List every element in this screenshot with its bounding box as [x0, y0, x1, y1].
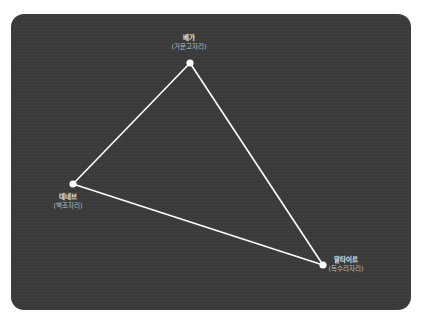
star-label-vega: 베가 (거문고자리) [171, 35, 206, 50]
star-name: 알타이르 [328, 257, 363, 264]
edge-altair-vega [190, 63, 323, 265]
constellation-name: (백조자리) [53, 203, 82, 210]
star-label-altair: 알타이르 (독수리자리) [328, 257, 363, 272]
edge-vega-deneb [73, 63, 190, 184]
star-name: 데네브 [53, 194, 82, 201]
star-label-deneb: 데네브 (백조자리) [53, 194, 82, 209]
star-point-deneb [69, 180, 76, 187]
constellation-name: (독수리자리) [328, 266, 363, 273]
constellation-name: (거문고자리) [171, 44, 206, 51]
summer-triangle-diagram [0, 0, 421, 323]
edge-deneb-altair [73, 184, 323, 265]
star-point-vega [186, 59, 193, 66]
star-name: 베가 [171, 35, 206, 42]
star-point-altair [319, 261, 326, 268]
